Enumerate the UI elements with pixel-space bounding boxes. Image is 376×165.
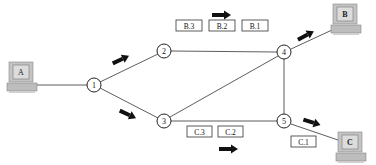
node-3-label: 3: [162, 117, 166, 126]
packet-b1: B.1: [242, 20, 268, 31]
packet-b1-label: B.1: [250, 22, 261, 31]
node-3: 3: [157, 114, 171, 128]
host-b: B: [331, 4, 361, 35]
packet-c2: C.2: [218, 126, 243, 137]
arrow-right-icon: [219, 145, 238, 154]
packet-b3: B.3: [176, 20, 202, 31]
node-4-label: 4: [282, 48, 286, 57]
node-2-label: 2: [162, 47, 166, 56]
link-2-4: [171, 51, 277, 52]
arrow-right-icon: [296, 27, 316, 43]
arrow-right-icon: [212, 11, 231, 20]
links: [36, 30, 338, 140]
packet-b3-label: B.3: [184, 22, 195, 31]
packet-c2-label: C.2: [225, 128, 236, 137]
packet-b2-label: B.2: [217, 22, 228, 31]
node-5-label: 5: [282, 117, 286, 126]
node-1: 1: [87, 78, 101, 92]
packet-c1: C.1: [291, 136, 316, 147]
packet-c3: C.3: [187, 126, 212, 137]
node-2: 2: [157, 44, 171, 58]
arrow-right-icon: [111, 52, 131, 68]
node-5: 5: [277, 114, 291, 128]
host-c: C: [336, 132, 366, 163]
host-b-label: B: [342, 10, 348, 19]
host-a-label: A: [18, 68, 24, 77]
host-a: A: [7, 62, 37, 93]
arrow-right-icon: [302, 115, 322, 129]
node-4: 4: [277, 45, 291, 59]
network-diagram: A B C 1 2 3 4 5 B.3 B.2 B.1: [0, 0, 376, 165]
link-3-4: [170, 56, 278, 117]
link-1-2: [100, 54, 158, 82]
host-c-label: C: [347, 138, 353, 147]
packet-c1-label: C.1: [298, 138, 309, 147]
packet-b2: B.2: [209, 20, 235, 31]
node-1-label: 1: [92, 81, 96, 90]
arrow-right-icon: [118, 107, 138, 123]
packet-c3-label: C.3: [194, 128, 205, 137]
